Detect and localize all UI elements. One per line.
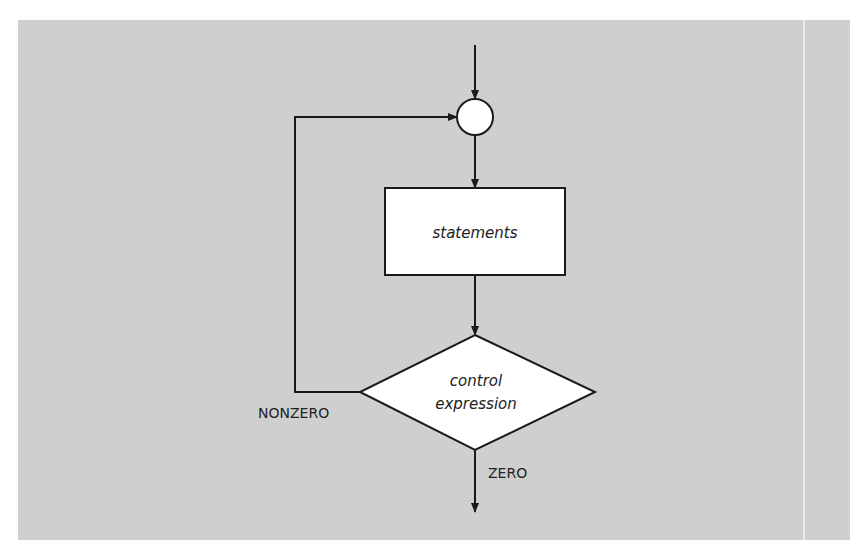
control-label-line1: control: [450, 372, 503, 390]
nonzero-label: NONZERO: [258, 405, 329, 421]
statements-label: statements: [432, 224, 517, 242]
flowchart: statements control expression NONZERO ZE…: [0, 0, 865, 555]
zero-label: ZERO: [488, 465, 527, 481]
control-expression-node: [360, 335, 595, 450]
control-label-line2: expression: [435, 395, 517, 413]
junction-node: [457, 99, 493, 135]
